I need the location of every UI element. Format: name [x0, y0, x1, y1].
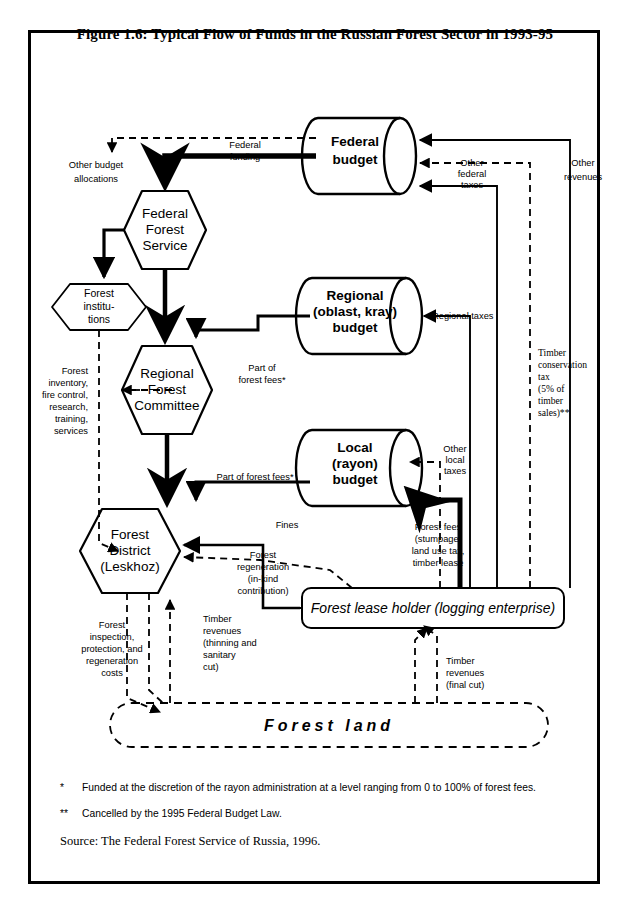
label-other-federal-taxes-2: federal [458, 169, 486, 179]
edge-district-down-1 [149, 593, 163, 703]
local-budget-label-3: budget [333, 472, 378, 487]
rfc-label-3: Committee [134, 398, 199, 413]
footnote-double: ** Cancelled by the 1995 Federal Budget … [60, 808, 580, 821]
label-forest-services-2: inventory, [48, 378, 88, 388]
label-forest-services-6: services [54, 426, 88, 436]
local-budget-label-2: (rayon) [332, 456, 378, 471]
label-timber-thinning-5: cut) [203, 662, 219, 672]
node-federal-forest-service: Federal Forest Service [124, 191, 206, 269]
ffs-label-3: Service [142, 238, 187, 253]
label-fines: Fines [276, 520, 299, 530]
label-forest-regeneration-1: Forest [250, 550, 277, 560]
label-forest-inspection-3: protection, and [81, 644, 143, 654]
label-forest-regeneration-4: contribution) [237, 586, 288, 596]
label-forest-inspection-4: regeneration [86, 656, 138, 666]
footnote-single-marker: * [60, 782, 64, 795]
fi-label-2: institu- [84, 300, 115, 312]
label-forest-fees-1: Forest fees [415, 522, 462, 532]
flow-diagram: Federal budget Regional (oblast, kray) b… [0, 0, 630, 914]
label-part-forest-fees-v1: Part of [248, 363, 276, 373]
node-forest-lease-holder: Forest lease holder (logging enterprise) [302, 588, 564, 628]
local-budget-label-1: Local [337, 440, 372, 455]
label-timber-thinning-2: revenues [203, 626, 242, 636]
label-timber-final-3: (final cut) [446, 680, 484, 690]
rfc-label-1: Regional [140, 366, 193, 381]
label-timber-thinning-3: (thinning and [203, 638, 257, 648]
label-forest-fees-3: land use tax, [412, 546, 465, 556]
label-timber-final-2: revenues [446, 668, 485, 678]
footnote-single-text: Funded at the discretion of the rayon ad… [82, 782, 536, 793]
label-other-local-taxes-3: taxes [444, 466, 467, 476]
label-timber-final-1: Timber [446, 656, 475, 666]
node-local-budget: Local (rayon) budget [296, 430, 422, 506]
lease-holder-label: Forest lease holder (logging enterprise) [311, 600, 555, 616]
edge-ffs-to-institutions [104, 230, 124, 277]
fd-label-3: (Leskhoz) [100, 559, 159, 574]
label-part-forest-fees-v2: forest fees* [238, 375, 285, 385]
node-forest-district: Forest District (Leskhoz) [80, 509, 180, 593]
figure-notes: * Funded at the discretion of the rayon … [60, 782, 580, 849]
label-forest-regeneration-3: (in-kind [248, 574, 278, 584]
forest-land-label: Forest land [264, 717, 394, 734]
label-federal-funding-2: funding [230, 152, 261, 162]
node-federal-budget: Federal budget [302, 118, 416, 194]
fi-label-1: Forest [84, 287, 114, 299]
label-timber-conservation-6: sales)** [538, 407, 570, 419]
label-other-federal-taxes-3: taxes [461, 180, 484, 190]
edge-timber-revenues-final [424, 626, 437, 703]
node-forest-land: Forest land [110, 703, 548, 747]
label-other-revenues-1: Other [571, 158, 594, 168]
label-forest-services-1: Forest [62, 366, 89, 376]
edge-local-budget-to-forest-district [196, 482, 310, 500]
label-forest-inspection-1: Forest [99, 620, 126, 630]
node-regional-budget: Regional (oblast, kray) budget [296, 278, 422, 354]
label-forest-inspection-2: inspection, [90, 632, 134, 642]
label-other-federal-taxes-1: Other [460, 158, 483, 168]
regional-budget-label-2: (oblast, kray) [313, 304, 397, 319]
label-forest-services-3: fire control, [42, 390, 88, 400]
label-forest-regeneration-2: regeneration [237, 562, 289, 572]
regional-budget-label-3: budget [333, 320, 378, 335]
ffs-label-2: Forest [146, 222, 185, 237]
federal-budget-label-1: Federal [331, 134, 379, 149]
footnote-double-marker: ** [60, 808, 68, 821]
fd-label-1: Forest [111, 527, 150, 542]
edge-timber-revenues-final-2 [415, 628, 427, 703]
footnote-single: * Funded at the discretion of the rayon … [60, 782, 580, 795]
label-timber-conservation-2: conservation [538, 359, 587, 370]
label-other-revenues-2: revenues [564, 172, 603, 182]
edge-other-budget-allocations [112, 138, 316, 152]
figure-page: Figure 1.6: Typical Flow of Funds in the… [0, 0, 630, 914]
label-timber-conservation-1: Timber [538, 347, 567, 358]
label-forest-fees-4: timber lease [413, 558, 464, 568]
label-forest-inspection-5: costs [101, 668, 123, 678]
label-part-forest-fees-h: Part of forest fees* [217, 472, 294, 482]
label-other-local-taxes-2: local [445, 455, 464, 465]
label-forest-services-5: training, [55, 414, 88, 424]
label-federal-funding-1: Federal [229, 140, 261, 150]
label-timber-thinning-4: sanitary [203, 650, 236, 660]
fi-label-3: tions [88, 313, 110, 325]
regional-budget-label-1: Regional [326, 288, 383, 303]
label-timber-conservation-4: (5% of [538, 383, 565, 395]
label-timber-conservation-3: tax [538, 371, 550, 382]
ffs-label-1: Federal [142, 206, 188, 221]
figure-source: Source: The Federal Forest Service of Ru… [60, 834, 580, 849]
label-other-budget-allocations-2: allocations [74, 174, 118, 184]
edge-regional-budget-to-rfc [196, 316, 310, 337]
label-timber-thinning-1: Timber [203, 614, 232, 624]
edge-fines [184, 545, 300, 608]
label-other-local-taxes-1: Other [443, 444, 466, 454]
label-other-budget-allocations-1: Other budget [69, 160, 124, 170]
label-regional-taxes: Regional taxes [432, 311, 494, 321]
label-forest-fees-2: (stumpage, [415, 534, 462, 544]
federal-budget-label-2: budget [333, 152, 378, 167]
node-forest-institutions: Forest institu- tions [52, 284, 146, 330]
label-timber-conservation-5: timber [538, 395, 564, 406]
label-forest-services-4: research, [49, 402, 88, 412]
footnote-double-text: Cancelled by the 1995 Federal Budget Law… [82, 808, 282, 819]
